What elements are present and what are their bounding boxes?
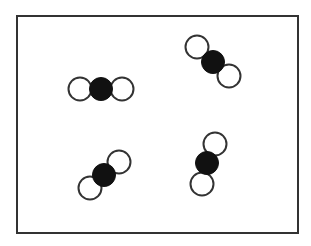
- molecule-diagram: [0, 0, 311, 246]
- molecule-3: [79, 151, 131, 200]
- outer-atom: [69, 78, 92, 101]
- outer-atom: [191, 173, 214, 196]
- molecule-2: [186, 36, 241, 88]
- central-atom: [90, 78, 113, 101]
- molecule-1: [69, 78, 134, 101]
- outer-atom: [111, 78, 134, 101]
- central-atom: [93, 164, 116, 187]
- molecule-4: [191, 133, 227, 196]
- central-atom: [196, 152, 219, 175]
- central-atom: [202, 51, 225, 74]
- container-frame: [17, 16, 298, 233]
- molecules-group: [69, 36, 241, 200]
